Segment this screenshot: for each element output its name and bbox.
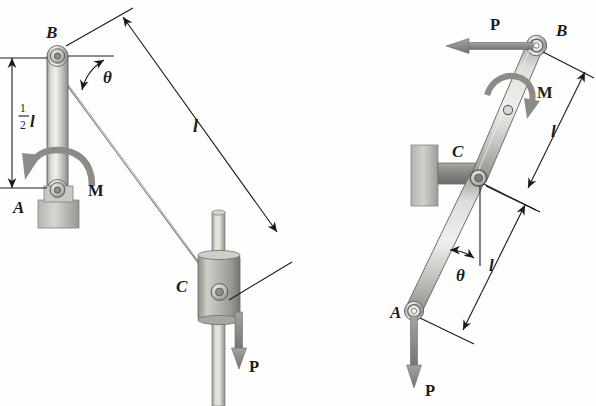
mechanics-figure: P M 1 2 l l θ — [0, 0, 596, 406]
force-arrow-p-bottom-right — [407, 316, 422, 388]
force-label-p-left: P — [249, 357, 259, 376]
point-label-c-right: C — [452, 142, 464, 161]
dimension-l-left — [66, 8, 292, 300]
pin-a — [50, 183, 65, 198]
half-l-numerator: 1 — [20, 102, 26, 114]
half-l-denominator: 2 — [20, 119, 26, 131]
pin-b — [50, 49, 64, 63]
dimension-label-l-upper-right: l — [551, 122, 556, 141]
force-label-p-bottom-right: P — [425, 381, 435, 400]
moment-label-m-right: M — [537, 83, 553, 102]
link-hole-right — [503, 105, 512, 114]
point-label-c-left: C — [176, 277, 188, 296]
right-mechanism-view: P P M l l θ — [389, 15, 594, 400]
figure-canvas: P M 1 2 l l θ — [0, 0, 596, 406]
moment-label-m-left: M — [88, 181, 104, 200]
left-mechanism-view: P M 1 2 l l θ — [0, 8, 292, 406]
point-label-b-left: B — [45, 23, 57, 42]
force-label-p-top-right: P — [490, 15, 500, 34]
half-l-unit: l — [30, 112, 35, 131]
force-arrow-p-top-right — [446, 39, 533, 54]
dimension-label-half-l: 1 2 l — [19, 102, 36, 131]
link-ab — [47, 46, 68, 201]
dimension-label-l-lower-right: l — [489, 256, 494, 275]
point-label-a-left: A — [12, 198, 24, 217]
angle-label-theta-right: θ — [456, 266, 465, 285]
point-label-b-right: B — [555, 21, 567, 40]
angle-label-theta-left: θ — [103, 68, 112, 87]
pin-c — [211, 284, 228, 301]
point-label-a-right: A — [389, 303, 401, 322]
dimension-label-l-left: l — [193, 116, 198, 136]
pin-a-right — [408, 305, 421, 318]
